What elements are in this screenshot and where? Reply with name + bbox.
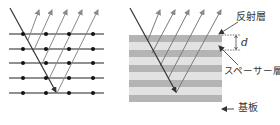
reflected-rays-left — [28, 10, 98, 93]
reflective-layer-leader — [219, 22, 238, 34]
multilayer-panel — [129, 8, 241, 109]
incident-ray-left — [10, 8, 56, 92]
reflective-layer-label: 反射層 — [236, 12, 266, 22]
spacing-d-dimension — [222, 35, 241, 50]
spacer-layer-label: スペーサー層 — [224, 66, 280, 76]
crystal-lattice-panel — [9, 8, 104, 95]
spacing-d-label: d — [241, 37, 248, 48]
substrate-label: 基板 — [238, 103, 258, 113]
